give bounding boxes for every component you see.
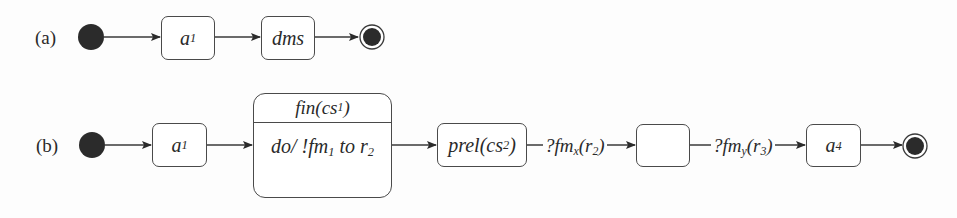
diagram-edges <box>0 0 957 218</box>
state-name: a <box>171 134 181 157</box>
state-blank <box>636 124 690 167</box>
state-name: dms <box>272 27 304 50</box>
state-name: a <box>180 27 190 50</box>
transition-label-fmx: ?fmx(r2) <box>543 136 607 155</box>
state-a1-row-a: a1 <box>161 16 215 60</box>
state-fin-composite: fin(cs1) do/ !fm1 to r2 <box>253 93 392 198</box>
final-state-a <box>360 25 384 49</box>
initial-state-b <box>79 132 105 158</box>
transition-label-fmy: ?fmy(r3) <box>711 136 775 155</box>
state-a4: a4 <box>806 124 861 167</box>
final-state-b <box>903 134 927 158</box>
state-dms: dms <box>261 16 315 60</box>
state-prel: prel(cs2) <box>437 123 527 167</box>
state-diagram: (a) (b) a1 dms a1 fin(cs1) do/ !fm1 to r… <box>0 0 957 218</box>
row-label-b: (b) <box>36 136 58 155</box>
row-label-a: (a) <box>35 28 56 47</box>
state-fin-header: fin(cs1) <box>254 94 391 123</box>
state-fin-activity: do/ !fm1 to r2 <box>254 123 391 158</box>
initial-state-a <box>78 24 104 50</box>
state-a1-row-b: a1 <box>152 123 207 167</box>
